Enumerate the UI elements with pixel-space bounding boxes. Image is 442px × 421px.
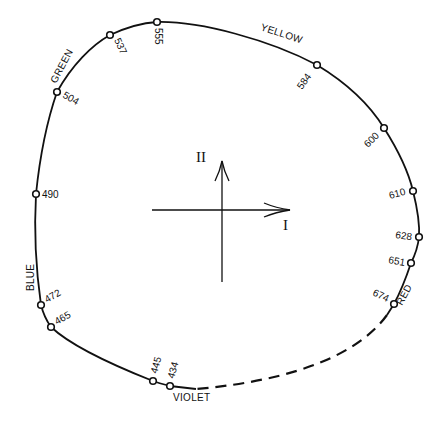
point-marker bbox=[150, 378, 157, 385]
wavelength-label: 490 bbox=[42, 189, 59, 200]
color-label-blue: BLUE bbox=[25, 264, 36, 291]
wavelength-point-600: 600 bbox=[362, 125, 388, 150]
point-marker bbox=[408, 260, 415, 267]
axis-label-vertical: II bbox=[196, 149, 206, 165]
axis-label-horizontal: I bbox=[283, 217, 288, 233]
wavelength-label: 628 bbox=[395, 229, 413, 242]
wavelength-point-651: 651 bbox=[388, 254, 415, 268]
wavelength-point-610: 610 bbox=[388, 186, 417, 201]
color-locus-diagram: I II GREEN YELLOW BLUE RED VIOLET 555 53… bbox=[0, 0, 442, 421]
spectral-locus-curve bbox=[35, 22, 419, 389]
color-label-yellow: YELLOW bbox=[259, 21, 304, 45]
point-marker bbox=[154, 19, 161, 26]
wavelength-point-445: 445 bbox=[148, 355, 163, 384]
point-marker bbox=[391, 301, 398, 308]
wavelength-point-465: 465 bbox=[48, 309, 73, 331]
wavelength-label: 472 bbox=[43, 287, 63, 305]
wavelength-label: 434 bbox=[165, 360, 180, 379]
wavelength-label: 537 bbox=[112, 36, 129, 56]
point-marker bbox=[54, 89, 61, 96]
wavelength-label: 610 bbox=[388, 186, 407, 201]
point-marker bbox=[33, 191, 40, 198]
point-marker bbox=[410, 188, 417, 195]
point-marker bbox=[381, 125, 388, 132]
point-marker bbox=[167, 383, 174, 390]
wavelength-point-537: 537 bbox=[107, 32, 130, 57]
point-marker bbox=[416, 234, 423, 241]
wavelength-label: 584 bbox=[295, 71, 314, 91]
axes: I II bbox=[152, 149, 290, 282]
wavelength-label: 504 bbox=[61, 89, 81, 107]
wavelength-label: 600 bbox=[362, 130, 382, 150]
wavelength-point-674: 674 bbox=[371, 287, 397, 307]
point-marker bbox=[107, 32, 114, 39]
color-label-green: GREEN bbox=[48, 47, 75, 85]
wavelength-point-584: 584 bbox=[295, 62, 321, 91]
wavelength-point-628: 628 bbox=[395, 229, 423, 242]
point-marker bbox=[38, 302, 45, 309]
wavelength-label: 651 bbox=[388, 254, 407, 268]
point-marker bbox=[314, 62, 321, 69]
wavelength-label: 465 bbox=[53, 309, 73, 327]
color-label-violet: VIOLET bbox=[173, 392, 210, 403]
purple-line-dashed bbox=[196, 315, 387, 389]
wavelength-point-472: 472 bbox=[38, 287, 63, 309]
wavelength-label: 555 bbox=[153, 28, 164, 45]
wavelength-point-504: 504 bbox=[54, 89, 82, 108]
wavelength-label: 445 bbox=[148, 355, 163, 374]
point-marker bbox=[48, 324, 55, 331]
wavelength-point-434: 434 bbox=[165, 360, 180, 389]
wavelength-label: 674 bbox=[371, 287, 391, 304]
